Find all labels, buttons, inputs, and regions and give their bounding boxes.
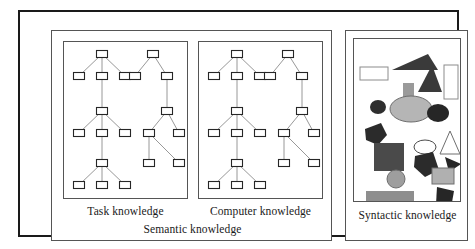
syntactic-shapes-panel [353, 38, 461, 202]
computer-knowledge-panel [198, 41, 323, 199]
tree-b-nodes [265, 51, 320, 167]
shape-light-gray-rectangle [432, 168, 454, 184]
shape-outlined-rectangle-tall [444, 65, 458, 99]
syntactic-shapes-svg [354, 39, 461, 202]
shape-dark-ellipse-right [427, 104, 449, 122]
shape-outlined-ellipse-white [414, 140, 436, 154]
task-knowledge-panel [63, 41, 188, 199]
task-knowledge-label: Task knowledge [63, 205, 188, 217]
computer-knowledge-label: Computer knowledge [198, 205, 323, 217]
shape-outlined-triangle-white [440, 131, 460, 154]
syntactic-knowledge-group: Syntactic knowledge [345, 30, 468, 241]
shape-gray-rectangle-large-bottom [366, 191, 414, 202]
semantic-knowledge-group: Task knowledge Computer knowledge Semant… [51, 30, 332, 241]
shape-outlined-rectangle-small [360, 67, 388, 80]
knowledge-diagram: Task knowledge Computer knowledge Semant… [0, 0, 475, 249]
shape-gray-circle [387, 170, 405, 188]
syntactic-knowledge-label: Syntactic knowledge [340, 209, 475, 221]
shape-light-gray-ellipse-large [390, 96, 432, 122]
shape-dark-ellipse-small-left [370, 100, 386, 114]
shape-dark-quadrilateral-bottom [436, 187, 454, 202]
diagram-outer-frame: Task knowledge Computer knowledge Semant… [18, 10, 459, 237]
shape-dark-pentagon-left [365, 123, 387, 145]
shape-dark-gray-square [374, 143, 404, 171]
semantic-knowledge-label: Semantic knowledge [52, 223, 333, 235]
tree-b-nodes [130, 51, 185, 167]
